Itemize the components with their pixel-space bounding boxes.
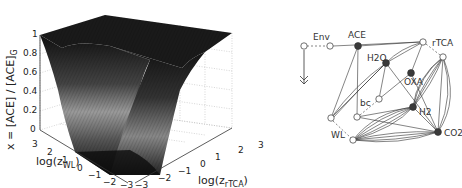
double-chevron-down-icon [300,50,308,84]
figure: 0 0.2 0.4 0.6 0.8 1 3 2 1 0 −1 −2 −3 −3 … [0,0,462,188]
surface-plot: 0 0.2 0.4 0.6 0.8 1 3 2 1 0 −1 −2 −3 −3 … [4,15,264,188]
label-rtca: rTCA [432,38,454,48]
z-tick: 0.2 [23,105,37,115]
label-wl: WL [331,130,345,140]
node-h2 [410,104,417,111]
node-bc-2 [354,114,360,120]
label-h2o: H2O [367,53,387,63]
label-ace: ACE [348,30,366,40]
y-axis-label: log(zrTCA) [198,174,248,188]
z-tick: 0 [30,124,36,134]
node-left [328,115,334,121]
z-axis-ticks: 0 0.2 0.4 0.6 0.8 1 [23,29,38,134]
z-axis-label: x = [ACE] / [ACE]G [4,49,19,150]
node-oxa [408,70,415,77]
y-tick: 0 [200,159,206,169]
label-co2: CO2 [444,128,462,138]
x-tick: −3 [120,180,133,188]
y-tick: 1 [215,152,221,162]
label-h2: H2 [419,107,432,117]
y-tick: −3 [135,180,148,188]
node-co2 [435,129,442,136]
label-env: Env [313,32,330,42]
z-tick: 0.8 [23,48,38,58]
z-tick: 1 [32,29,38,39]
node-rtca-2 [440,54,446,60]
label-bc: bc [360,98,371,108]
node-ace [355,43,362,50]
z-tick: 0.4 [23,86,38,96]
y-tick: 2 [238,145,244,155]
surface-mesh [40,15,232,175]
x-tick: −2 [103,177,116,187]
node-rtca [420,39,426,45]
node-source [301,43,307,49]
node-bc [376,96,382,102]
x-tick: 3 [32,139,38,149]
node-wl [350,137,356,143]
z-tick: 0.6 [23,67,38,77]
y-tick: −1 [178,166,191,176]
x-tick: −1 [88,170,101,180]
y-tick: 3 [258,140,264,150]
y-tick: −2 [158,173,171,183]
x-axis-label: log(zWL) [36,155,80,170]
network-diagram: Env ACE rTCA H2O OXA bc H2 WL CO2 [300,30,462,143]
label-oxa: OXA [404,77,424,87]
node-env [327,43,333,49]
